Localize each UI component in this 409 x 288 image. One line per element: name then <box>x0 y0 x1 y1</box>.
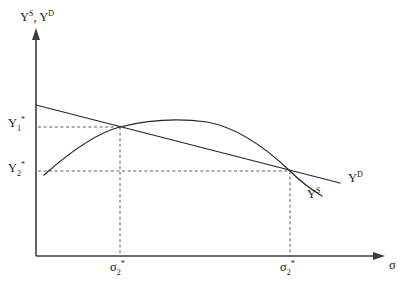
y-axis-title: YS, YD <box>20 11 54 24</box>
x-axis-arrow-icon <box>373 252 385 260</box>
x-tick-second-sup: * <box>291 259 295 268</box>
y-tick-y2-sub: 2 <box>17 169 21 178</box>
economics-diagram: YS, YD σ Y1* Y2* σ2* σ2* YD YS <box>0 0 409 288</box>
y-tick-label-y1: Y1* <box>8 117 25 130</box>
y-tick-y1-base: Y <box>8 116 17 130</box>
x-tick-label-first: σ2* <box>110 261 125 274</box>
x-axis-title: σ <box>389 259 396 272</box>
y-tick-y1-sub: 1 <box>17 124 21 133</box>
y-axis-arrow-icon <box>32 28 40 40</box>
x-tick-first-sub: 2 <box>117 268 121 277</box>
x-tick-second-sub: 2 <box>287 268 291 277</box>
plot-canvas <box>0 0 409 288</box>
x-tick-label-second: σ2* <box>280 261 295 274</box>
y-tick-label-y2: Y2* <box>8 162 25 175</box>
x-tick-second-base: σ <box>280 260 287 274</box>
y-tick-y2-base: Y <box>8 161 17 175</box>
supply-curve-label-sup: S <box>316 186 320 195</box>
supply-curve-ys <box>44 120 322 196</box>
supply-curve-label: YS <box>307 188 320 201</box>
x-tick-first-sup: * <box>121 259 125 268</box>
y-tick-y2-sup: * <box>21 160 25 169</box>
demand-curve-label-base: Y <box>348 171 357 185</box>
demand-curve-yd <box>36 105 340 183</box>
demand-curve-label-sup: D <box>357 170 363 179</box>
x-tick-first-base: σ <box>110 260 117 274</box>
y-tick-y1-sup: * <box>21 115 25 124</box>
demand-curve-label: YD <box>348 172 363 185</box>
y-axis-title-yd-base: Y <box>39 10 48 24</box>
y-axis-title-ys-base: Y <box>20 10 29 24</box>
x-axis-title-sigma: σ <box>389 258 396 272</box>
y-axis-title-yd-sup: D <box>48 9 54 18</box>
supply-curve-label-base: Y <box>307 187 316 201</box>
